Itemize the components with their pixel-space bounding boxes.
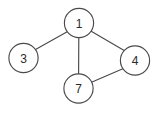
graph-node-3[interactable]: 3: [9, 43, 38, 72]
graph-edge-7-4: [92, 68, 125, 82]
node-circle-1[interactable]: [64, 8, 93, 37]
node-circle-3[interactable]: [9, 43, 38, 72]
graph-node-4[interactable]: 4: [120, 46, 149, 75]
graph-diagram: 1 3 4 7: [0, 0, 158, 115]
graph-edge-1-4: [91, 31, 124, 51]
node-circle-4[interactable]: [120, 46, 149, 75]
graph-edge-3-1: [36, 32, 68, 50]
node-circle-7[interactable]: [64, 74, 93, 103]
graph-canvas: 1 3 4 7: [0, 0, 158, 115]
graph-node-1[interactable]: 1: [64, 8, 93, 37]
graph-node-7[interactable]: 7: [64, 74, 93, 103]
